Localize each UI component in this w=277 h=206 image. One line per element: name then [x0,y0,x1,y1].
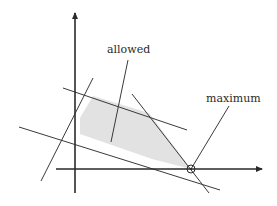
maximum-label: maximum [206,93,261,104]
lp-diagram: allowed maximum [0,0,277,206]
constraint-line-objective [191,106,229,169]
allowed-label: allowed [107,44,150,55]
feasible-region [80,96,191,169]
maximum-point-dot-icon [190,168,192,170]
